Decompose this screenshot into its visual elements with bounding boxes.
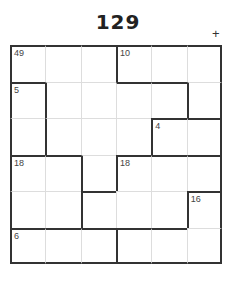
grid-cell[interactable] bbox=[45, 45, 80, 82]
grid-cell[interactable] bbox=[45, 118, 80, 155]
grid-cell[interactable] bbox=[151, 82, 186, 119]
grid-cell[interactable]: 16 bbox=[187, 191, 222, 228]
grid-cell[interactable] bbox=[151, 155, 186, 192]
cage-sum: 49 bbox=[14, 48, 24, 58]
grid-cell[interactable]: 6 bbox=[10, 228, 45, 265]
grid-cell[interactable] bbox=[116, 118, 151, 155]
cage-sum: 6 bbox=[14, 231, 19, 241]
grid-cell[interactable]: 10 bbox=[116, 45, 151, 82]
grid-cell[interactable] bbox=[187, 228, 222, 265]
grid-cell[interactable] bbox=[81, 45, 116, 82]
puzzle-title: 129 bbox=[0, 10, 236, 34]
grid-cell[interactable] bbox=[187, 45, 222, 82]
grid-cell[interactable] bbox=[81, 155, 116, 192]
cage-sum: 10 bbox=[120, 48, 130, 58]
grid-cell[interactable] bbox=[10, 191, 45, 228]
grid-cell[interactable] bbox=[45, 155, 80, 192]
grid-cell[interactable] bbox=[151, 228, 186, 265]
grid-cell[interactable] bbox=[81, 82, 116, 119]
grid-cell[interactable]: 49 bbox=[10, 45, 45, 82]
cage-sum: 4 bbox=[155, 121, 160, 131]
grid-cell[interactable] bbox=[45, 82, 80, 119]
grid-cell[interactable] bbox=[81, 191, 116, 228]
grid-cell[interactable] bbox=[151, 45, 186, 82]
grid-cell[interactable] bbox=[116, 191, 151, 228]
grid-cell[interactable]: 4 bbox=[151, 118, 186, 155]
grid-cell[interactable] bbox=[187, 155, 222, 192]
grid-cell[interactable]: 5 bbox=[10, 82, 45, 119]
cage-sum: 16 bbox=[191, 194, 201, 204]
grid-cell[interactable] bbox=[187, 118, 222, 155]
grid-cell[interactable] bbox=[187, 82, 222, 119]
cage-sum: 18 bbox=[120, 158, 130, 168]
grid-cell[interactable]: 18 bbox=[10, 155, 45, 192]
grid-cell[interactable] bbox=[116, 228, 151, 265]
grid-cell[interactable] bbox=[45, 228, 80, 265]
grid-cell[interactable]: 18 bbox=[116, 155, 151, 192]
killer-sudoku-grid: 4910541818166 bbox=[10, 45, 222, 264]
zoom-in-button[interactable]: + bbox=[212, 27, 220, 40]
cage-sum: 18 bbox=[14, 158, 24, 168]
grid-cell[interactable] bbox=[10, 118, 45, 155]
grid-cell[interactable] bbox=[116, 82, 151, 119]
grid-cell[interactable] bbox=[81, 118, 116, 155]
grid-cell[interactable] bbox=[45, 191, 80, 228]
cage-sum: 5 bbox=[14, 85, 19, 95]
grid-cell[interactable] bbox=[81, 228, 116, 265]
grid-cell[interactable] bbox=[151, 191, 186, 228]
